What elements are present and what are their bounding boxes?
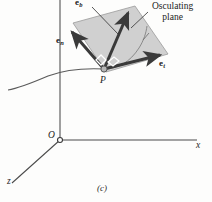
origin-label-o: O [48,131,55,141]
axis-label-x: x [196,141,200,151]
z-axis-line [12,140,60,183]
axis-label-z: z [7,177,11,187]
origin-marker [58,138,63,143]
vector-label-e-t: et [159,59,165,68]
osculating-plane-callout: Osculating plane [152,1,193,22]
figure-caption: (c) [97,184,107,193]
figure-canvas [0,0,212,202]
vector-label-e-n-sub: n [60,39,64,46]
point-p-marker [101,66,107,72]
vector-label-e-t-sub: t [163,62,165,69]
vector-label-e-b: eb [75,0,82,7]
osculating-plane-callout-line1: Osculating [152,1,193,12]
vector-label-e-n: en [56,36,64,45]
point-label-p: P [100,76,106,86]
figure-osculating-plane: eb en et Osculating plane P O x z (c) [0,0,212,202]
vector-label-e-b-sub: b [79,1,82,8]
osculating-plane-callout-line2: plane [152,12,193,23]
